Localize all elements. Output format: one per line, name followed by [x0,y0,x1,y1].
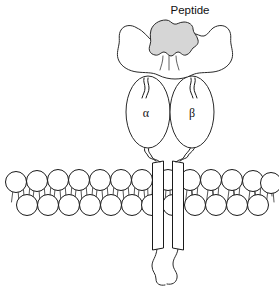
lipid-head [17,195,38,216]
lipid-head [38,195,59,216]
lipid-head [227,195,248,216]
cytoplasmic-tails [152,249,178,285]
alpha-domain-label: α [143,106,150,120]
lipid-head [111,170,132,191]
lipid-head [122,195,143,216]
lower-leaflet-heads [17,195,269,216]
figure-root: α β Peptide [0,0,279,290]
lipid-head [201,170,222,191]
beta-domain-label: β [189,106,195,120]
lipid-head [261,173,280,194]
lipid-head [248,195,269,216]
ig-domains: α β [126,76,214,148]
lipid-head [101,195,122,216]
lipid-head [59,195,80,216]
lipid-head [48,170,69,191]
stalk-connectors [144,147,195,162]
alpha-cytoplasmic-tail [152,249,165,285]
alpha-transmembrane-helix [153,161,164,250]
lipid-head [80,195,101,216]
lipid-head [185,195,206,216]
beta-transmembrane-helix [173,161,184,250]
lipid-head [69,170,90,191]
lipid-head [222,170,243,191]
lipid-head [27,171,48,192]
peptide-blob [149,20,198,56]
beta-cytoplasmic-tail [167,249,178,284]
lipid-head [206,195,227,216]
lipid-head [132,170,153,191]
lipid-bilayer [6,170,280,216]
lipid-head [90,170,111,191]
lipid-head [6,172,27,193]
upper-leaflet-heads [6,170,280,194]
peptide-label: Peptide [170,4,209,16]
mhc-class-ii-diagram: α β Peptide [0,0,279,290]
